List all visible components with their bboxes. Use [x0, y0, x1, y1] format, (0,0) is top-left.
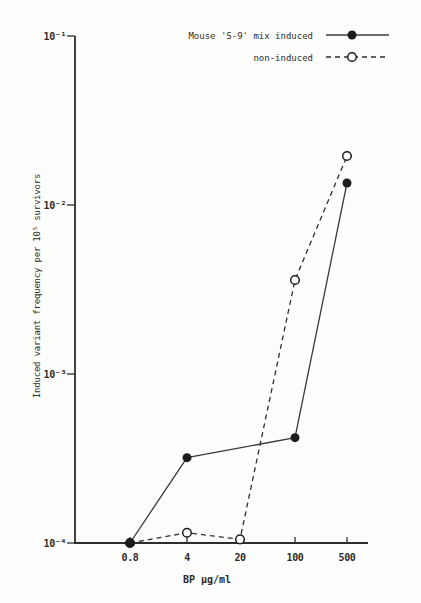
- x-axis-tick-label: 500: [339, 552, 356, 563]
- y-axis-tick-label: 10⁻¹: [44, 31, 66, 42]
- y-axis-tick-label: 10⁻³: [44, 369, 66, 380]
- series-marker-induced: [126, 539, 135, 548]
- axes: [74, 36, 368, 543]
- y-axis-ticks: 10⁻¹10⁻²10⁻³10⁻⁴: [44, 31, 75, 549]
- series-marker-non-induced: [236, 535, 245, 544]
- scanned-line-chart-figure: 10⁻¹10⁻²10⁻³10⁻⁴ 0.8420100500 Mouse 'S-9…: [0, 0, 421, 603]
- series-marker-non-induced: [291, 276, 300, 285]
- series-line-non-induced: [130, 156, 347, 543]
- series-marker-non-induced: [183, 528, 192, 537]
- series-marker-induced: [183, 453, 192, 462]
- legend-samples: [326, 31, 389, 62]
- series-line-induced: [130, 183, 347, 543]
- legend-label-non-induced: non-induced: [253, 53, 313, 63]
- series-marker-non-induced: [343, 152, 352, 161]
- legend-marker-sample: [348, 53, 357, 62]
- data-series: [126, 152, 352, 548]
- chart-canvas: 10⁻¹10⁻²10⁻³10⁻⁴ 0.8420100500 Mouse 'S-9…: [0, 0, 421, 603]
- x-axis-title: BP μg/ml: [183, 574, 231, 585]
- series-marker-induced: [291, 433, 300, 442]
- y-axis-title: Induced variant frequency per 10⁵ surviv…: [32, 174, 42, 398]
- legend-marker-sample: [348, 31, 357, 40]
- legend: Mouse 'S-9' mix induced non-induced: [188, 31, 389, 63]
- y-axis-tick-label: 10⁻⁴: [44, 538, 66, 549]
- x-axis-tick-label: 4: [184, 552, 190, 563]
- x-axis-tick-label: 0.8: [122, 552, 139, 563]
- x-axis-tick-label: 20: [234, 552, 246, 563]
- legend-label-induced: Mouse 'S-9' mix induced: [188, 31, 313, 41]
- x-axis-tick-label: 100: [287, 552, 304, 563]
- series-marker-induced: [343, 178, 352, 187]
- y-axis-tick-label: 10⁻²: [44, 200, 66, 211]
